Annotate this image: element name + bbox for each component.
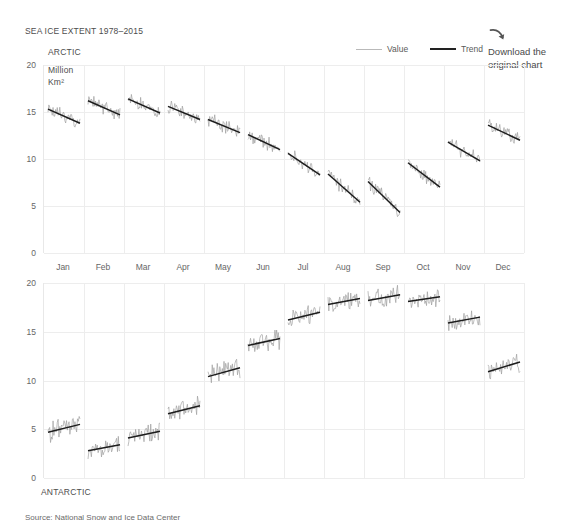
gridline-horizontal (44, 478, 524, 479)
trend-line-feb (88, 445, 120, 451)
x-axis-tick-label: Nov (455, 262, 470, 272)
gridline-horizontal (44, 253, 524, 254)
legend-item-value: Value (356, 44, 408, 54)
value-line-dec (488, 120, 520, 144)
trend-line-dec (488, 125, 520, 140)
gridline-vertical (524, 283, 525, 478)
trend-line-feb (88, 101, 120, 115)
trend-line-dec (488, 362, 520, 372)
trend-line-oct (408, 163, 440, 187)
arctic-plot-area (43, 65, 523, 253)
x-axis-tick-label: Jan (56, 262, 70, 272)
series-layer (44, 283, 524, 478)
trend-line-jun (248, 339, 280, 346)
y-axis-tick-label: 20 (8, 278, 36, 288)
value-line-apr (168, 101, 200, 123)
x-axis-tick-label: Aug (335, 262, 350, 272)
gridline-vertical (524, 65, 525, 253)
y-axis-tick-label: 5 (8, 424, 36, 434)
trend-line-jul (288, 153, 320, 175)
x-axis-tick-label: Feb (96, 262, 111, 272)
page-title: SEA ICE EXTENT 1978–2015 (25, 26, 143, 36)
y-axis-tick-label: 10 (8, 376, 36, 386)
arctic-x-axis: JanFebMarAprMayJunJulAugSepOctNovDec (0, 262, 565, 276)
y-axis-tick-label: 10 (8, 154, 36, 164)
download-link-line1: Download the (488, 46, 564, 59)
y-axis-tick-label: 5 (8, 201, 36, 211)
chart-page: SEA ICE EXTENT 1978–2015 Value Trend Dow… (0, 0, 565, 531)
legend-item-trend: Trend (430, 44, 483, 54)
x-axis-tick-label: Apr (176, 262, 189, 272)
y-axis-tick-label: 0 (8, 248, 36, 258)
trend-line-sep (368, 182, 400, 213)
trend-line-may (208, 120, 240, 133)
trend-line-aug (328, 174, 360, 202)
value-line-may (208, 359, 240, 383)
arctic-y-axis: 05101520 (0, 65, 36, 253)
y-axis-tick-label: 20 (8, 60, 36, 70)
antarctic-panel-label: ANTARCTIC (41, 487, 91, 497)
legend-swatch-value-icon (356, 49, 382, 50)
y-axis-tick-label: 0 (8, 473, 36, 483)
y-axis-tick-label: 15 (8, 327, 36, 337)
series-layer (44, 65, 524, 253)
trend-line-jan (48, 109, 80, 123)
x-axis-tick-label: Oct (416, 262, 429, 272)
source-note: Source: National Snow and Ice Data Cente… (25, 513, 180, 522)
curved-arrow-icon (488, 28, 508, 44)
x-axis-tick-label: Dec (495, 262, 510, 272)
trend-line-nov (448, 142, 480, 161)
arctic-panel-label: ARCTIC (48, 47, 81, 57)
legend-label-value: Value (387, 44, 408, 54)
antarctic-y-axis: 05101520 (0, 283, 36, 478)
legend-swatch-trend-icon (430, 48, 456, 50)
legend-label-trend: Trend (461, 44, 483, 54)
y-axis-tick-label: 15 (8, 107, 36, 117)
x-axis-tick-label: Jul (298, 262, 309, 272)
x-axis-tick-label: May (215, 262, 231, 272)
legend: Value Trend (356, 44, 483, 54)
x-axis-tick-label: Jun (256, 262, 270, 272)
x-axis-tick-label: Mar (136, 262, 151, 272)
value-line-jun (248, 330, 280, 352)
trend-line-mar (128, 99, 160, 113)
antarctic-plot-area (43, 283, 523, 478)
x-axis-tick-label: Sep (375, 262, 390, 272)
value-line-jan (48, 416, 80, 442)
